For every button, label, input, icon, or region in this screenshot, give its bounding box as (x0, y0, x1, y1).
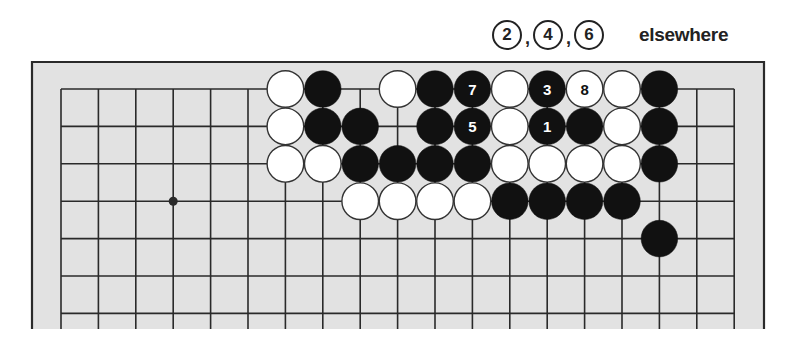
white-stone (604, 146, 641, 183)
star-points (169, 197, 178, 206)
black-stone (454, 146, 491, 183)
white-stone (492, 108, 529, 145)
move-number: 1 (543, 118, 551, 135)
black-stone (492, 183, 529, 220)
black-stone (379, 146, 416, 183)
black-stone-5: 5 (454, 108, 491, 145)
black-stone (641, 146, 678, 183)
black-stone (417, 108, 454, 145)
black-stone (417, 71, 454, 108)
move-number: 3 (543, 81, 551, 98)
white-stone (417, 183, 454, 220)
black-stone-7: 7 (454, 71, 491, 108)
move-number: 5 (468, 118, 476, 135)
white-stone (379, 183, 416, 220)
white-stone (529, 146, 566, 183)
white-stone (379, 71, 416, 108)
white-stone (492, 146, 529, 183)
white-stone (267, 108, 304, 145)
white-stone (454, 183, 491, 220)
star-point (169, 197, 178, 206)
white-stone (604, 71, 641, 108)
go-board: 73851 (0, 0, 796, 353)
black-stone (566, 108, 603, 145)
black-stone (529, 183, 566, 220)
white-stone (492, 71, 529, 108)
white-stone (342, 183, 379, 220)
move-number: 8 (580, 81, 588, 98)
black-stone (342, 108, 379, 145)
white-stone (604, 108, 641, 145)
black-stone (342, 146, 379, 183)
black-stone-3: 3 (529, 71, 566, 108)
white-stone (267, 71, 304, 108)
black-stone (604, 183, 641, 220)
black-stone (641, 71, 678, 108)
move-number: 7 (468, 81, 476, 98)
white-stone (305, 146, 342, 183)
black-stone-1: 1 (529, 108, 566, 145)
black-stone (566, 183, 603, 220)
white-stone (566, 146, 603, 183)
white-stone-8: 8 (566, 71, 603, 108)
black-stone (305, 71, 342, 108)
black-stone (417, 146, 454, 183)
black-stone (641, 108, 678, 145)
white-stone (267, 146, 304, 183)
black-stone (305, 108, 342, 145)
black-stone (641, 220, 678, 257)
